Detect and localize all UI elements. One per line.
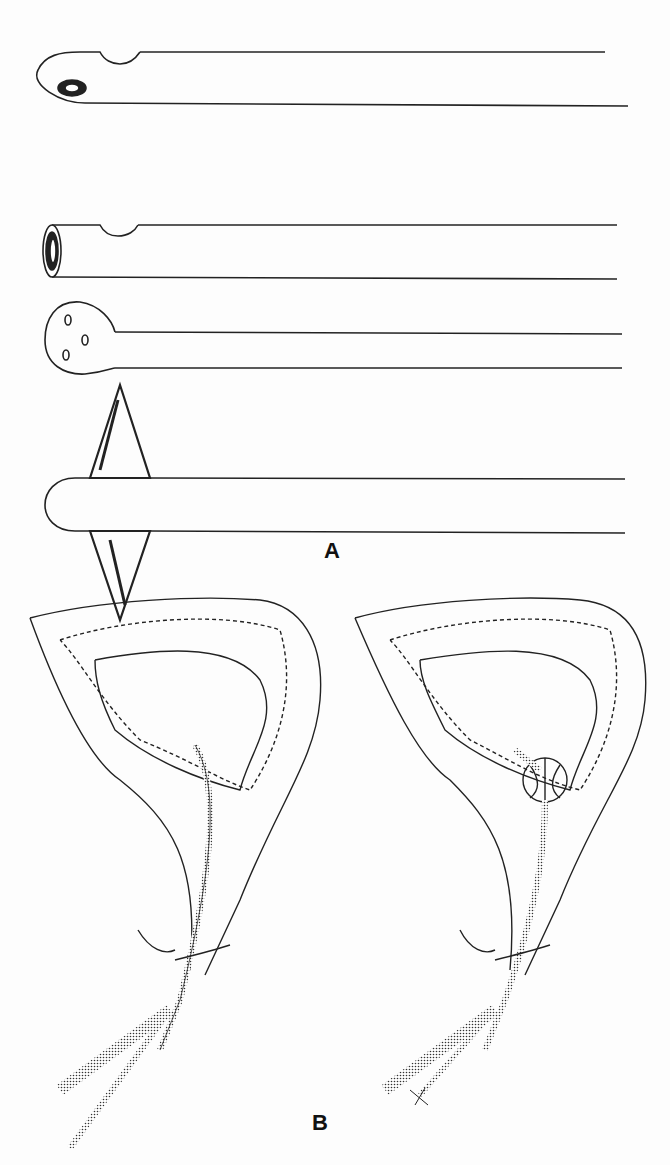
illustration	[0, 0, 670, 1165]
catheter-mushroom-tip	[45, 302, 622, 374]
catheter-open-end	[43, 225, 617, 279]
catheter-malecot-tip	[45, 385, 625, 620]
catheter-whistle-tip	[37, 52, 628, 106]
bladder-catheter-uninflated	[30, 598, 321, 1148]
panel-label-b: B	[312, 1110, 328, 1136]
bladder-catheter-balloon-inflated-tied	[355, 598, 646, 1105]
panel-label-a: A	[324, 538, 340, 564]
